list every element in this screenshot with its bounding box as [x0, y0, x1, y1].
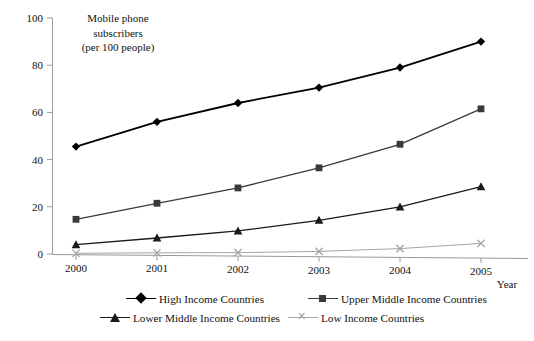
- data-point-square: [478, 105, 485, 112]
- legend-label-low-income: Low Income Countries: [321, 312, 424, 324]
- x-tick-label: 2000: [65, 262, 88, 274]
- data-point-square: [316, 164, 323, 171]
- x-axis-line: [53, 255, 529, 259]
- series-line-cross: [76, 243, 481, 253]
- legend-label-lower-middle-income: Lower Middle Income Countries: [133, 312, 280, 324]
- y-tick-label: 80: [32, 59, 44, 71]
- legend-item-high-income[interactable]: High Income Countries: [126, 293, 264, 305]
- x-tick-label: 2002: [227, 263, 249, 275]
- y-tick-group: 020406080100: [27, 12, 53, 260]
- y-tick-label: 100: [27, 12, 44, 24]
- y-tick-label: 40: [32, 154, 44, 166]
- diamond-marker-icon: [126, 293, 156, 304]
- legend-label-high-income: High Income Countries: [159, 293, 264, 305]
- y-tick-label: 0: [38, 248, 44, 260]
- legend-item-upper-middle-income[interactable]: Upper Middle Income Countries: [308, 293, 487, 305]
- cross-marker-icon: ✕: [288, 312, 318, 323]
- data-point-diamond: [315, 83, 323, 91]
- y-tick-label: 60: [32, 106, 44, 118]
- x-tick-label: 2004: [389, 264, 412, 276]
- series-line-square: [76, 109, 481, 219]
- data-point-diamond: [396, 63, 404, 71]
- data-point-diamond: [234, 99, 242, 107]
- legend-item-lower-middle-income[interactable]: Lower Middle Income Countries: [100, 312, 280, 324]
- x-tick-label: 2005: [470, 265, 493, 277]
- legend-label-upper-middle-income: Upper Middle Income Countries: [341, 293, 487, 305]
- square-marker-icon: [308, 293, 338, 304]
- data-point-triangle: [477, 182, 486, 190]
- data-point-diamond: [72, 142, 80, 150]
- data-point-diamond: [153, 118, 161, 126]
- line-chart: Mobile phone subscribers (per 100 people…: [0, 0, 534, 341]
- x-tick-label: 2001: [146, 262, 168, 274]
- series-line-triangle: [76, 187, 481, 245]
- data-point-square: [397, 141, 404, 148]
- data-point-square: [235, 185, 242, 192]
- data-point-diamond: [477, 37, 485, 45]
- x-tick-label: 2003: [308, 264, 331, 276]
- data-point-square: [73, 216, 80, 223]
- series-group: [72, 37, 486, 256]
- triangle-marker-icon: [100, 312, 130, 323]
- series-line-diamond: [76, 42, 481, 147]
- chart-legend: High Income Countries Upper Middle Incom…: [0, 289, 534, 333]
- data-point-square: [154, 200, 161, 207]
- y-tick-label: 20: [32, 201, 44, 213]
- legend-item-low-income[interactable]: ✕ Low Income Countries: [288, 312, 424, 324]
